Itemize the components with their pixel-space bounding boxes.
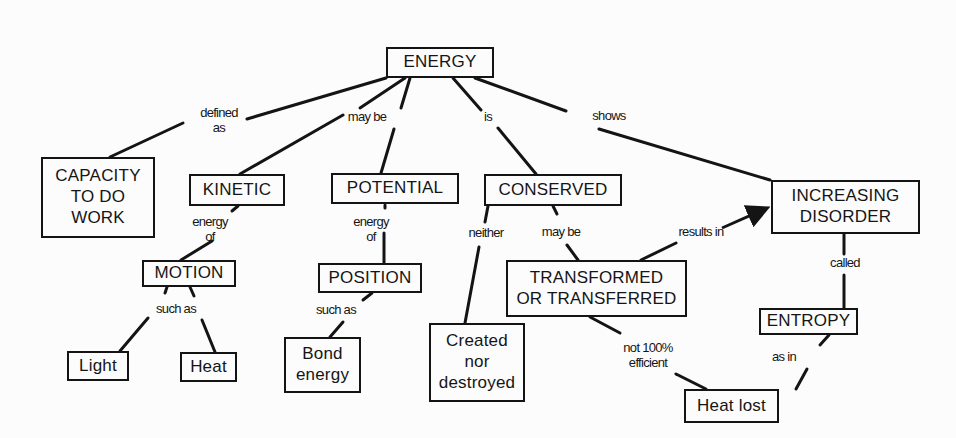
connector-line bbox=[676, 374, 706, 389]
concept-node-position: POSITION bbox=[318, 263, 422, 293]
concept-node-capacity: CAPACITY TO DO WORK bbox=[41, 157, 155, 238]
connector-line bbox=[240, 115, 343, 174]
connector-line bbox=[190, 287, 194, 296]
connector-line bbox=[202, 320, 215, 352]
connector-line bbox=[590, 317, 620, 333]
connector-line bbox=[485, 206, 488, 222]
connector-line bbox=[363, 293, 372, 300]
concept-node-light: Light bbox=[67, 351, 129, 381]
connector-line bbox=[381, 129, 394, 173]
link-label-may-be-1: may be bbox=[348, 110, 386, 125]
link-label-as-in: as in bbox=[772, 350, 796, 365]
connector-line bbox=[796, 369, 807, 389]
link-label-may-be-2: may be bbox=[542, 225, 580, 240]
connector-line bbox=[567, 245, 578, 260]
connector-line bbox=[641, 243, 676, 260]
connector-line bbox=[553, 206, 557, 214]
concept-node-energy: ENERGY bbox=[386, 47, 494, 78]
connector-line bbox=[401, 78, 410, 108]
concept-node-conserved: CONSERVED bbox=[484, 174, 622, 206]
connector-line bbox=[330, 322, 343, 337]
connector-line bbox=[120, 318, 148, 351]
link-label-such-as-2: such as bbox=[316, 303, 356, 318]
connector-line bbox=[232, 206, 238, 211]
link-label-shows: shows bbox=[592, 109, 625, 124]
concept-map: ENERGYCAPACITY TO DO WORKKINETICPOTENTIA… bbox=[0, 0, 956, 438]
link-label-such-as-1: such as bbox=[156, 302, 196, 317]
concept-node-entropy: ENTROPY bbox=[759, 308, 858, 335]
concept-node-motion: MOTION bbox=[142, 260, 236, 287]
connector-line bbox=[165, 287, 167, 293]
connector-line bbox=[475, 78, 566, 111]
concept-node-transformed: TRANSFORMED OR TRANSFERRED bbox=[506, 260, 687, 317]
connector-line bbox=[820, 335, 829, 345]
concept-node-bond: Bond energy bbox=[284, 337, 361, 393]
link-label-is: is bbox=[484, 110, 492, 125]
link-label-energy-of-1: energy of bbox=[192, 215, 228, 245]
link-label-energy-of-2: energy of bbox=[353, 215, 389, 245]
concept-node-kinetic: KINETIC bbox=[189, 174, 285, 206]
concept-node-created: Created nor destroyed bbox=[429, 323, 525, 402]
connector-line bbox=[599, 129, 770, 180]
connector-line bbox=[498, 128, 536, 174]
link-label-not-100: not 100% efficient bbox=[623, 341, 672, 371]
link-label-defined-as: defined as bbox=[200, 106, 238, 136]
concept-node-heat: Heat bbox=[180, 352, 237, 382]
concept-node-potential: POTENTIAL bbox=[331, 173, 459, 204]
link-label-neither: neither bbox=[469, 226, 504, 241]
connector-line bbox=[465, 247, 479, 323]
connector-line bbox=[110, 123, 183, 157]
link-label-results-in: results in bbox=[678, 225, 723, 240]
link-label-called: called bbox=[830, 256, 860, 271]
connector-line bbox=[453, 78, 481, 110]
arrow-connector bbox=[722, 209, 765, 228]
concept-node-heatlost: Heat lost bbox=[684, 389, 779, 423]
concept-node-disorder: INCREASING DISORDER bbox=[771, 180, 920, 234]
